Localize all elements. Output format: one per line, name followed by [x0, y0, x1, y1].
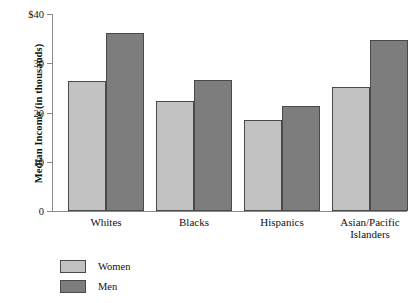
legend-label-women: Women [98, 261, 130, 272]
legend-label-men: Men [98, 281, 117, 292]
y-tick-mark [47, 113, 52, 114]
y-tick-mark [47, 162, 52, 163]
category-label-line: Asian/Pacific [316, 216, 413, 228]
y-tick-mark [47, 14, 52, 15]
legend-swatch-men [60, 280, 86, 293]
y-tick-mark [47, 63, 52, 64]
y-tick-label: $40 [28, 9, 44, 20]
category-label-line: Islanders [316, 228, 413, 240]
chart-legend: WomenMen [60, 256, 130, 296]
category-label-asian-pacific-islanders: Asian/PacificIslanders [316, 216, 413, 241]
bar-women-asian-pacific-islanders [332, 87, 370, 211]
bar-men-blacks [194, 80, 232, 211]
legend-swatch-women [60, 260, 86, 273]
bar-men-whites [106, 33, 144, 211]
y-tick-label: 20 [34, 107, 45, 118]
bar-men-hispanics [282, 106, 320, 211]
y-tick-label: 30 [34, 58, 45, 69]
legend-item-women: Women [60, 256, 130, 276]
x-axis-line [52, 211, 407, 212]
y-tick-label: 0 [39, 206, 44, 217]
bar-women-blacks [156, 101, 194, 211]
legend-item-men: Men [60, 276, 130, 296]
bar-men-asian-pacific-islanders [370, 40, 408, 211]
bar-chart-figure: Median Income (in thousands) 0102030$40 … [0, 0, 413, 303]
y-axis-line [52, 14, 53, 212]
bar-women-hispanics [244, 120, 282, 211]
y-tick-label: 10 [34, 156, 45, 167]
bar-women-whites [68, 81, 106, 212]
y-tick-mark [47, 211, 52, 212]
plot-area: 0102030$40 WhitesBlacksHispanicsAsian/Pa… [52, 14, 407, 212]
